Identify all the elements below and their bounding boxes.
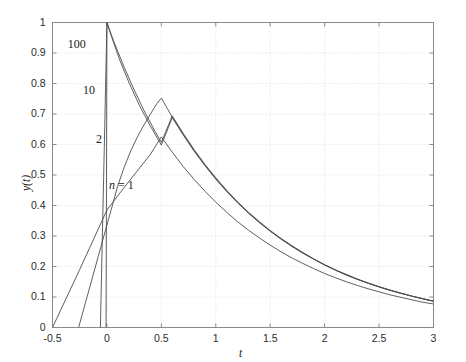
x-axis-tick-label: 1.5 <box>245 332 295 344</box>
x-axis-tick-label: 1 <box>191 332 241 344</box>
x-axis-tick-label: 0 <box>82 332 132 344</box>
y-axis-tick-label: 0.4 <box>0 199 46 211</box>
curve-annotation-10: 10 <box>83 83 95 98</box>
y-axis-tick-label: 0.9 <box>0 46 46 58</box>
y-axis-tick-label: 0.2 <box>0 260 46 272</box>
y-axis-title: y(t) <box>20 175 32 191</box>
y-axis-tick-label: 0.1 <box>0 290 46 302</box>
curve-n-1 <box>53 137 434 328</box>
y-axis-tick-label: 1 <box>0 16 46 28</box>
curve-2 <box>79 98 434 327</box>
x-axis-tick-label: 2 <box>300 332 350 344</box>
x-axis-tick-label: 2.5 <box>354 332 404 344</box>
x-axis-tick-label: 3 <box>409 332 459 344</box>
x-axis-title: t <box>239 347 242 359</box>
curve-annotation-2: 2 <box>96 132 102 147</box>
y-axis-tick-label: 0.7 <box>0 107 46 119</box>
x-axis-tick-label: 0.5 <box>136 332 186 344</box>
y-axis-tick-label: 0.3 <box>0 229 46 241</box>
curve-annotation-100: 100 <box>68 37 86 52</box>
y-axis-tick-label: 0.8 <box>0 77 46 89</box>
figure-canvas: 00.10.20.30.40.50.60.70.80.91-0.500.511.… <box>0 0 466 362</box>
curve-10 <box>100 23 433 328</box>
chart-plot <box>0 0 466 362</box>
curve-annotation-n-1: n = 1 <box>109 178 134 193</box>
x-axis-tick-label: -0.5 <box>28 332 78 344</box>
y-axis-tick-label: 0.6 <box>0 138 46 150</box>
